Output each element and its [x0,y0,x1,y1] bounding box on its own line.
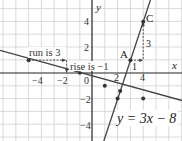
arrow-icon [139,59,143,62]
run-annotation: run is 3 [29,47,61,58]
step-rise-label: 3 [146,38,151,49]
y-tick-label: 4 [84,16,89,27]
x-tick-label: −2 [57,75,68,86]
point-c-label: C [146,12,153,24]
y-tick-label: −4 [80,120,91,131]
y-tick-label: 2 [84,42,89,53]
x-tick-label: −4 [32,75,43,86]
rise-annotation: rise is −1 [70,61,109,72]
arrow-icon [62,59,66,62]
y-axis-label: y [95,1,101,13]
x-tick-label: 4 [140,72,145,83]
point-c [141,20,145,24]
shallow-line [0,50,182,100]
step-run-label: 1 [132,61,137,72]
equation-label: y = 3x − 8 [115,111,176,126]
coordinate-plane: x y −4 −2 2 4 4 2 −2 −4 0 A C 3 1 [0,0,182,141]
y-tick-label: −2 [80,94,91,105]
point-a-label: A [120,48,128,60]
x-axis-label: x [171,59,177,71]
origin-label: 0 [84,75,89,86]
